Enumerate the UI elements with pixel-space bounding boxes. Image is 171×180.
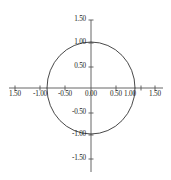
y-tick-label: 0.50: [74, 63, 86, 70]
y-tick-label: 1.50: [74, 16, 86, 23]
y-tick-label: -1.00: [72, 131, 86, 138]
x-tick-label: 1.50: [9, 91, 21, 98]
y-tick-label: 1.00: [74, 39, 86, 46]
x-tick-label: 0.00: [85, 91, 97, 98]
y-tick-label: -0.50: [72, 109, 86, 116]
x-tick-label: 0.50: [110, 91, 122, 98]
circle-plot-figure: 1.50 -1.00 -0.50 0.00 0.50 1.00 1.50 1.5…: [0, 0, 171, 180]
x-tick-label: 1.50: [149, 91, 161, 98]
x-tick-label: -1.00: [33, 91, 47, 98]
x-tick-label: -0.50: [58, 91, 72, 98]
y-tick-label: -1.50: [72, 155, 86, 162]
x-tick-label: 1.00: [124, 91, 136, 98]
